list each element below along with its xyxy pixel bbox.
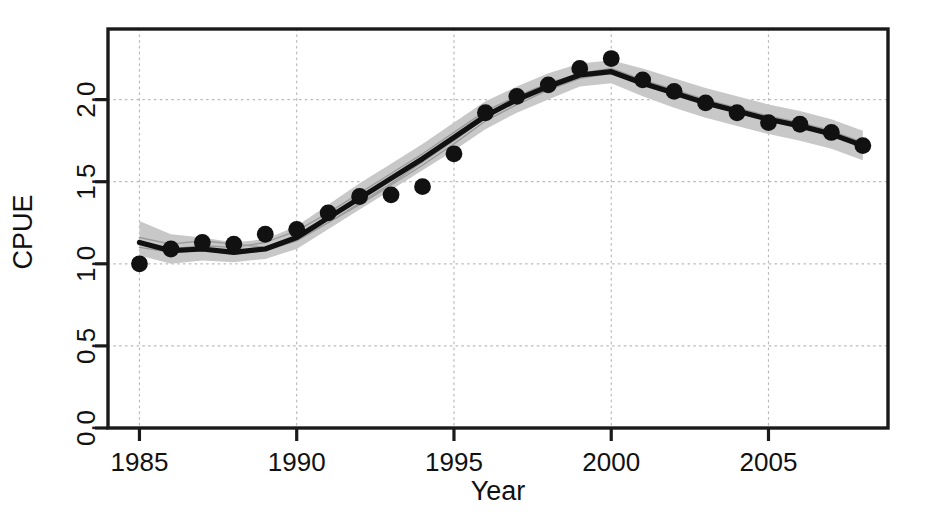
- chart-canvas: 198519901995200020050.00.51.01.52.0 Year…: [0, 0, 927, 524]
- data-point: [603, 50, 620, 67]
- y-tick-label: 1.5: [71, 164, 101, 200]
- data-point: [792, 116, 809, 133]
- y-tick-label: 0.0: [71, 410, 101, 446]
- cpue-year-figure: 198519901995200020050.00.51.01.52.0 Year…: [0, 0, 927, 524]
- data-point: [508, 88, 525, 105]
- data-point: [666, 83, 683, 100]
- y-tick-label: 2.0: [71, 82, 101, 118]
- x-tick-label: 2005: [740, 447, 798, 477]
- data-point: [729, 104, 746, 121]
- data-point: [194, 234, 211, 251]
- data-point: [571, 60, 588, 77]
- data-point: [697, 94, 714, 111]
- x-tick-label: 1995: [425, 447, 483, 477]
- data-point: [446, 145, 463, 162]
- data-point: [320, 205, 337, 222]
- data-point: [823, 124, 840, 141]
- data-point: [257, 226, 274, 243]
- y-tick-label: 0.5: [71, 328, 101, 364]
- x-tick-label: 2000: [582, 447, 640, 477]
- x-tick-label: 1985: [111, 447, 169, 477]
- data-point: [225, 236, 242, 253]
- data-point: [477, 104, 494, 121]
- x-tick-label: 1990: [268, 447, 326, 477]
- data-point: [163, 241, 180, 258]
- y-tick-label: 1.0: [71, 246, 101, 282]
- data-point: [634, 72, 651, 89]
- data-point: [414, 178, 431, 195]
- x-axis-title: Year: [471, 476, 526, 506]
- data-point: [760, 114, 777, 131]
- data-point: [351, 188, 368, 205]
- data-point: [288, 221, 305, 238]
- data-point: [383, 186, 400, 203]
- y-axis-title: CPUE: [8, 194, 38, 269]
- data-point: [854, 137, 871, 154]
- data-point: [131, 255, 148, 272]
- data-point: [540, 76, 557, 93]
